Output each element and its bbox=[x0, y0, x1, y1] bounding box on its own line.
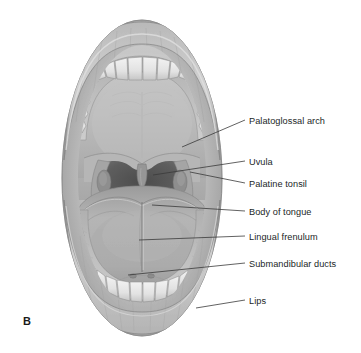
label-uvula: Uvula bbox=[249, 157, 273, 167]
label-body-of-tongue: Body of tongue bbox=[249, 207, 312, 217]
figure-container: Palatoglossal archUvulaPalatine tonsilBo… bbox=[0, 0, 361, 353]
label-lips: Lips bbox=[249, 296, 266, 306]
label-palatoglossal-arch: Palatoglossal arch bbox=[249, 116, 325, 126]
label-lingual-frenulum: Lingual frenulum bbox=[249, 232, 318, 242]
leader-line-lips bbox=[196, 300, 245, 308]
label-palatine-tonsil: Palatine tonsil bbox=[249, 179, 307, 189]
figure-letter: B bbox=[23, 315, 31, 327]
label-submandibular-ducts: Submandibular ducts bbox=[249, 259, 336, 269]
oral-cavity-illustration bbox=[0, 0, 361, 353]
